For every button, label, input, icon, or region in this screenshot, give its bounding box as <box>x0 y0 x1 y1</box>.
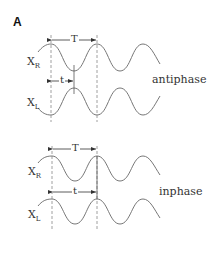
inphase-xr-label: XR <box>28 165 41 180</box>
inphase-section <box>38 146 160 231</box>
antiphase-xr-label: XR <box>27 55 40 70</box>
antiphase-section <box>38 35 160 122</box>
inphase-xr-wave <box>38 156 160 181</box>
antiphase-title: antiphase <box>152 73 206 86</box>
inphase-xl-wave <box>38 199 160 224</box>
antiphase-xl-wave <box>38 88 160 115</box>
antiphase-xl-label: XL <box>27 96 40 111</box>
inphase-delay-label: t <box>72 186 78 196</box>
antiphase-delay-label: t <box>59 75 65 85</box>
inphase-title: inphase <box>159 185 202 198</box>
inphase-period-label: T <box>71 143 80 153</box>
inphase-xl-label: XL <box>28 208 41 223</box>
antiphase-xr-wave <box>38 44 160 71</box>
antiphase-period-label: T <box>70 34 79 44</box>
